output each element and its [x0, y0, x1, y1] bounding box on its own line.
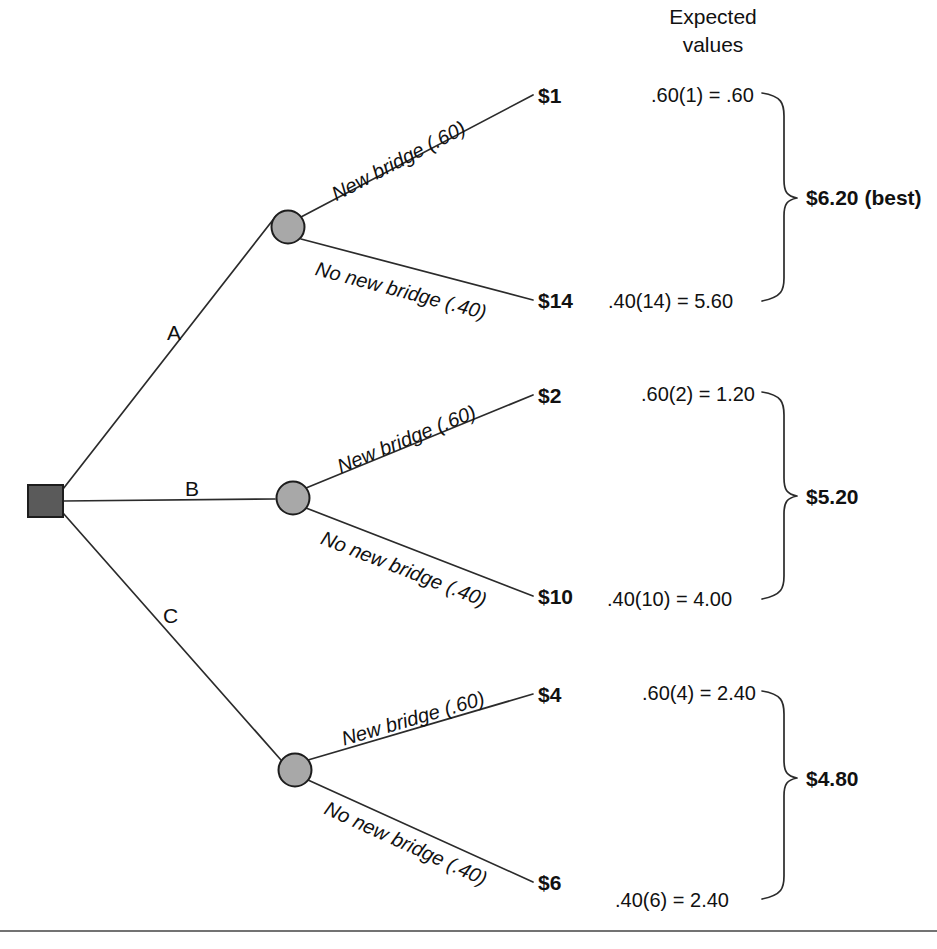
payoff-a-nonew: $14 — [538, 290, 573, 311]
payoff-c-nonew: $6 — [538, 872, 561, 893]
chance-node-b[interactable] — [277, 482, 310, 515]
payoff-b-new: $2 — [538, 385, 561, 406]
branch-line-a — [63, 216, 276, 489]
ev-expression-c-new: .60(4) = 2.40 — [642, 683, 756, 703]
ev-expression-a-new: .60(1) = .60 — [651, 85, 754, 105]
ev-expression-a-nonew: .40(14) = 5.60 — [608, 291, 733, 311]
brace-a — [762, 93, 797, 301]
brace-c — [762, 691, 797, 899]
payoff-a-new: $1 — [538, 85, 561, 106]
alternative-label-a: A — [167, 322, 181, 343]
alternative-label-b: B — [185, 478, 199, 499]
brace-b — [762, 392, 797, 599]
branch-line-c — [63, 513, 281, 760]
outcome-line-c-nonew — [308, 780, 533, 882]
expected-value-total-a: $6.20 (best) — [806, 187, 922, 208]
ev-expression-b-nonew: .40(10) = 4.00 — [607, 589, 732, 609]
decision-tree-canvas — [0, 0, 937, 949]
page-title-line2: values — [648, 34, 778, 55]
expected-value-total-b: $5.20 — [806, 486, 859, 507]
alternative-label-c: C — [163, 605, 178, 626]
payoff-b-nonew: $10 — [538, 586, 573, 607]
chance-node-a[interactable] — [272, 211, 305, 244]
payoff-c-new: $4 — [538, 684, 561, 705]
ev-expression-c-nonew: .40(6) = 2.40 — [615, 890, 729, 910]
expected-value-total-c: $4.80 — [806, 768, 859, 789]
decision-node[interactable] — [28, 485, 63, 517]
page-title-line1: Expected — [648, 6, 778, 27]
ev-expression-b-new: .60(2) = 1.20 — [641, 384, 755, 404]
chance-node-c[interactable] — [279, 754, 312, 787]
branch-line-b — [63, 499, 275, 501]
